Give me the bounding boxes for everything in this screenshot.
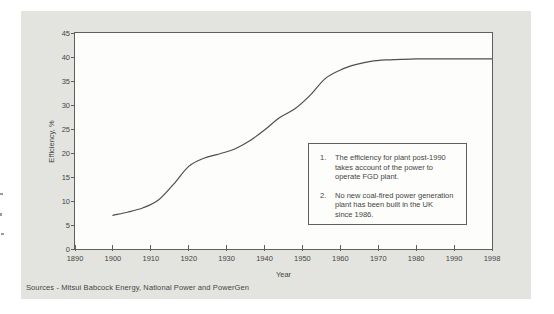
x-tick-label: 1890 <box>57 254 93 263</box>
note-text: The efficiency for plant post-1990 takes… <box>335 153 463 182</box>
chart-panel: Efficiency, % 1. The efficiency for plan… <box>21 11 531 299</box>
note-item-1: 1. The efficiency for plant post-1990 ta… <box>320 153 463 182</box>
y-tick-mark <box>71 201 75 202</box>
note-line: since 1986. <box>335 210 463 220</box>
y-tick-label: 10 <box>40 197 70 206</box>
x-tick-mark <box>302 245 303 251</box>
y-tick-mark <box>71 57 75 58</box>
y-tick-label: 40 <box>40 53 70 62</box>
x-tick-mark <box>454 245 455 251</box>
y-tick-label: 35 <box>40 77 70 86</box>
x-tick-mark <box>112 245 113 251</box>
note-text: No new coal-fired power generation plant… <box>335 191 463 220</box>
y-tick-mark <box>71 105 75 106</box>
note-line: plant has been built in the UK <box>335 200 463 210</box>
x-tick-label: 1960 <box>322 254 358 263</box>
y-tick-mark <box>71 177 75 178</box>
x-tick-label: 1970 <box>360 254 396 263</box>
x-tick-label: 1998 <box>474 254 510 263</box>
y-tick-label: 0 <box>40 245 70 254</box>
y-tick-label: 15 <box>40 173 70 182</box>
y-tick-label: 25 <box>40 125 70 134</box>
x-tick-mark <box>188 245 189 251</box>
note-line: takes account of the power to <box>335 163 463 173</box>
x-tick-mark <box>264 245 265 251</box>
x-tick-mark <box>378 245 379 251</box>
x-tick-label: 1930 <box>209 254 245 263</box>
notes-box: 1. The efficiency for plant post-1990 ta… <box>308 143 467 225</box>
x-tick-mark <box>150 245 151 251</box>
note-line: operate FGD plant. <box>335 172 463 182</box>
y-tick-mark <box>71 81 75 82</box>
y-tick-label: 20 <box>40 149 70 158</box>
x-tick-label: 1950 <box>284 254 320 263</box>
y-tick-label: 45 <box>40 29 70 38</box>
y-tick-mark <box>71 33 75 34</box>
x-tick-label: 1990 <box>436 254 472 263</box>
source-text: Sources - Mitsui Babcock Energy, Nationa… <box>26 283 249 292</box>
x-tick-mark <box>226 245 227 251</box>
y-tick-label: 5 <box>40 221 70 230</box>
scan-edge-artifact <box>0 213 2 216</box>
plot-area: 1. The efficiency for plant post-1990 ta… <box>74 32 493 250</box>
x-tick-mark <box>340 245 341 251</box>
scan-edge-artifact <box>0 193 3 195</box>
y-tick-mark <box>71 129 75 130</box>
note-line: The efficiency for plant post-1990 <box>335 153 463 163</box>
note-number: 2. <box>320 191 335 220</box>
x-tick-mark <box>416 245 417 251</box>
x-tick-label: 1940 <box>247 254 283 263</box>
note-item-2: 2. No new coal-fired power generation pl… <box>320 191 463 220</box>
x-tick-label: 1980 <box>398 254 434 263</box>
y-tick-label: 30 <box>40 101 70 110</box>
x-tick-label: 1920 <box>171 254 207 263</box>
y-tick-mark <box>71 225 75 226</box>
x-axis-title: Year <box>74 270 493 279</box>
x-tick-label: 1910 <box>133 254 169 263</box>
note-number: 1. <box>320 153 335 182</box>
x-tick-mark <box>492 245 493 251</box>
scan-edge-artifact <box>1 233 4 235</box>
note-line: No new coal-fired power generation <box>335 191 463 201</box>
y-tick-mark <box>71 153 75 154</box>
x-tick-mark <box>75 245 76 251</box>
x-tick-label: 1900 <box>95 254 131 263</box>
